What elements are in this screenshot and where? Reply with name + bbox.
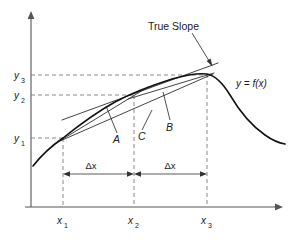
graph-canvas: True Slope y = f(x) A C B Δx Δx y 1 y 2 … — [0, 0, 295, 240]
leader-line-c — [142, 110, 152, 130]
x-tick-label-x2: x 2 — [127, 215, 139, 229]
delta-x-right-arrowhead-start-icon — [134, 171, 141, 177]
true-slope-label: True Slope — [148, 20, 199, 32]
y-tick-y1-subscript: 1 — [21, 140, 25, 147]
leader-line-b — [163, 92, 170, 120]
y-tick-y3-base: y — [13, 70, 20, 81]
function-label: y = f(x) — [235, 78, 267, 89]
delta-x-left-label: Δx — [85, 160, 96, 171]
leader-arrowhead-true-slope-icon — [207, 58, 213, 66]
y-tick-label-y2: y 2 — [13, 90, 25, 104]
y-tick-y3-subscript: 3 — [21, 77, 25, 84]
curve-label-c: C — [138, 130, 146, 142]
x-tick-x3-subscript: 3 — [208, 222, 212, 229]
delta-x-right-label: Δx — [164, 160, 175, 171]
y-tick-label-y3: y 3 — [13, 70, 25, 84]
y-tick-y2-base: y — [13, 90, 20, 101]
secant-line-c — [60, 74, 213, 141]
curve-label-b: B — [166, 121, 173, 133]
axes-group — [25, 11, 283, 210]
x-tick-x1-base: x — [56, 215, 63, 226]
leader-line-a — [106, 106, 117, 133]
delta-x-left-arrowhead-start-icon — [63, 171, 70, 177]
x-tick-x2-base: x — [127, 215, 134, 226]
x-tick-x3-base: x — [200, 215, 207, 226]
y-tick-label-y1: y 1 — [13, 133, 25, 147]
delta-x-right-arrowhead-end-icon — [200, 171, 207, 177]
y-axis-arrowhead-icon — [28, 11, 35, 19]
y-tick-y2-subscript: 2 — [21, 97, 25, 104]
delta-x-left-arrowhead-end-icon — [127, 171, 134, 177]
x-tick-label-x1: x 1 — [56, 215, 68, 229]
x-tick-x1-subscript: 1 — [64, 222, 68, 229]
leader-line-true-slope — [192, 33, 211, 64]
x-tick-x2-subscript: 2 — [135, 222, 139, 229]
x-tick-label-x3: x 3 — [200, 215, 212, 229]
y-tick-y1-base: y — [13, 133, 20, 144]
figure-container: True Slope y = f(x) A C B Δx Δx y 1 y 2 … — [0, 0, 295, 240]
secant-line-b — [128, 73, 214, 99]
x-axis-arrowhead-icon — [275, 204, 283, 211]
curve-label-a: A — [112, 133, 120, 145]
dimension-arrows-group — [63, 171, 207, 177]
